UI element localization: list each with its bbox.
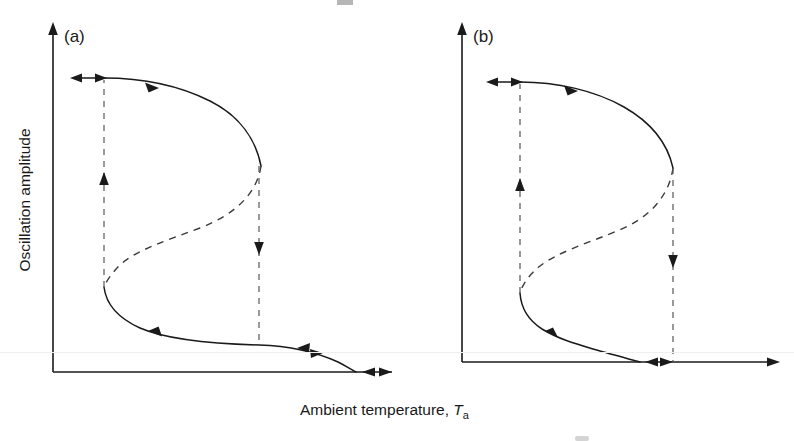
panel-a-unstable-branch (104, 166, 261, 287)
figure-root: (a) (0, 0, 794, 441)
panel-a-arrow-upper-right (145, 83, 159, 93)
scan-artifact-bottom (575, 436, 589, 441)
panel-a-arrow-lower-left (148, 327, 162, 337)
scan-artifact-top (337, 0, 353, 5)
panel-b-y-axis (457, 22, 467, 362)
y-axis-title: Oscillation amplitude (16, 128, 33, 271)
panel-a-y-axis (48, 22, 58, 372)
panel-b-label: (b) (473, 27, 494, 46)
panel-b-arrow-upper-left-double (486, 77, 523, 86)
panel-b: (b) (457, 22, 780, 367)
panel-b-x-axis (462, 357, 780, 366)
panel-b-up-jump (515, 84, 525, 293)
scan-artifact-line (0, 352, 794, 353)
panel-b-upper-stable-branch (520, 82, 673, 168)
panel-a-down-jump (254, 166, 264, 345)
x-axis-title-subscript: a (463, 409, 470, 421)
x-axis-title: Ambient temperature, Ta (300, 401, 470, 421)
panel-a-upper-stable-branch (104, 78, 261, 166)
panel-a-up-jump (99, 80, 109, 287)
panel-a-label: (a) (64, 27, 85, 46)
x-axis-title-text: Ambient temperature, (300, 401, 453, 418)
panel-b-down-jump (668, 168, 678, 362)
panel-a-lower-stable-branch (104, 287, 356, 372)
panel-a: (a) (48, 22, 392, 377)
panel-a-arrow-upper-left-double (70, 73, 107, 82)
panel-b-unstable-branch (520, 168, 673, 293)
hysteresis-figure-svg: (a) (0, 0, 794, 441)
